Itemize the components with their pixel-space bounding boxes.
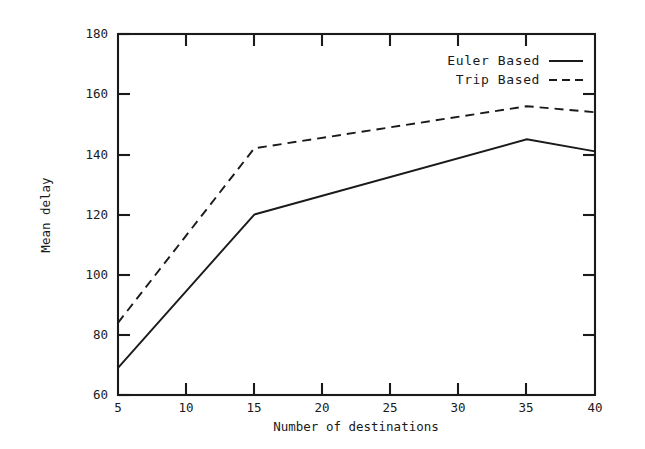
x-axis-title: Number of destinations bbox=[273, 419, 439, 434]
x-tick-label: 40 bbox=[587, 400, 602, 415]
y-tick-label: 160 bbox=[85, 86, 108, 101]
x-axis-tick-labels: 5 10 15 20 25 30 35 40 bbox=[114, 400, 602, 415]
x-tick-label: 15 bbox=[246, 400, 261, 415]
x-tick-label: 10 bbox=[178, 400, 193, 415]
x-tick-label: 20 bbox=[314, 400, 329, 415]
series-line-trip-based bbox=[118, 106, 595, 323]
y-tick-label: 80 bbox=[93, 327, 108, 342]
chart-canvas: 60 80 100 120 140 160 180 5 10 15 20 25 … bbox=[0, 0, 645, 449]
y-tick-label: 120 bbox=[85, 207, 108, 222]
y-tick-label: 140 bbox=[85, 147, 108, 162]
y-axis-ticks bbox=[118, 34, 595, 395]
legend-label-euler-based: Euler Based bbox=[447, 53, 540, 68]
y-tick-label: 60 bbox=[93, 387, 108, 402]
plot-area-frame bbox=[118, 34, 595, 395]
x-axis-ticks bbox=[186, 34, 526, 395]
x-tick-label: 25 bbox=[382, 400, 397, 415]
x-tick-label: 35 bbox=[518, 400, 533, 415]
x-tick-label: 5 bbox=[114, 400, 122, 415]
y-axis-tick-labels: 60 80 100 120 140 160 180 bbox=[85, 26, 108, 402]
chart-legend: Euler Based Trip Based bbox=[447, 53, 583, 87]
y-tick-label: 100 bbox=[85, 267, 108, 282]
x-tick-label: 30 bbox=[450, 400, 465, 415]
y-tick-label: 180 bbox=[85, 26, 108, 41]
legend-label-trip-based: Trip Based bbox=[456, 72, 540, 87]
series-line-euler-based bbox=[118, 139, 595, 368]
y-axis-title: Mean delay bbox=[38, 177, 53, 253]
chart-figure: 60 80 100 120 140 160 180 5 10 15 20 25 … bbox=[0, 0, 645, 449]
